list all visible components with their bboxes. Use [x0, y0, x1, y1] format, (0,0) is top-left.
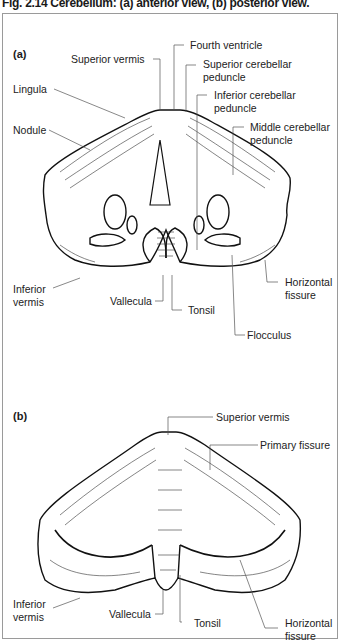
label-tonsil-b: Tonsil [194, 617, 221, 630]
label-line: Inferior [13, 283, 46, 296]
label-horizontal-fissure-a: Horizontal fissure [285, 276, 332, 302]
label-superior-vermis-a: Superior vermis [71, 53, 145, 66]
label-vallecula-b: Vallecula [109, 608, 151, 621]
label-tonsil-a: Tonsil [188, 304, 215, 317]
label-line: vermis [13, 296, 46, 309]
label-line: peduncle [203, 71, 292, 84]
label-line: Horizontal [285, 617, 332, 630]
panel-a-label: (a) [13, 48, 26, 60]
label-line: Inferior [13, 598, 46, 611]
label-line: Superior cerebellar [203, 58, 292, 71]
label-inferior-vermis-a: Inferior vermis [13, 283, 46, 309]
label-line: fissure [285, 630, 332, 641]
label-superior-cerebellar-peduncle: Superior cerebellar peduncle [203, 58, 292, 84]
label-line: fissure [285, 289, 332, 302]
label-lingula: Lingula [13, 83, 47, 96]
label-line: Inferior cerebellar [214, 89, 296, 102]
label-inferior-cerebellar-peduncle: Inferior cerebellar peduncle [214, 89, 296, 115]
label-vallecula-a: Vallecula [110, 295, 152, 308]
label-line: vermis [13, 611, 46, 624]
label-line: Middle cerebellar [250, 121, 330, 134]
label-primary-fissure: Primary fissure [260, 439, 330, 452]
label-horizontal-fissure-b: Horizontal fissure [285, 617, 332, 641]
label-inferior-vermis-b: Inferior vermis [13, 598, 46, 624]
label-superior-vermis-b: Superior vermis [216, 411, 290, 424]
label-line: peduncle [214, 102, 296, 115]
label-line: Horizontal [285, 276, 332, 289]
label-fourth-ventricle: Fourth ventricle [190, 39, 262, 52]
label-nodule: Nodule [13, 124, 46, 137]
panel-b-label: (b) [13, 410, 27, 422]
label-flocculus: Flocculus [247, 329, 291, 342]
label-line: peduncle [250, 134, 330, 147]
label-middle-cerebellar-peduncle: Middle cerebellar peduncle [250, 121, 330, 147]
